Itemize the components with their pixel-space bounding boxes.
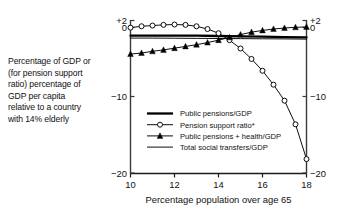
- xtick-label-10: 10: [125, 179, 135, 190]
- data-point-marker: [183, 22, 188, 27]
- legend-item-1: Pension support ratio*: [147, 121, 255, 130]
- line-chart: +2 0 −10 −20 +2 0 −10 −20 10 12 14 16 18: [0, 0, 357, 210]
- ytick-label-left-m20: −20: [111, 168, 127, 179]
- data-point-marker: [150, 23, 155, 28]
- y-axis-tick-labels-left: +2 0 −10 −20: [111, 15, 127, 179]
- chart-figure: Percentage of GDP or (for pension suppor…: [0, 0, 357, 210]
- ytick-label-right-0: 0: [310, 22, 315, 33]
- xtick-label-12: 12: [169, 179, 179, 190]
- legend-item-2: Public pensions + health/GDP: [147, 132, 281, 141]
- data-point-marker: [293, 122, 298, 127]
- data-point-marker: [172, 22, 177, 27]
- series-2: [128, 24, 310, 57]
- series-line: [131, 38, 307, 39]
- plot-area-container: +2 0 −10 −20 +2 0 −10 −20 10 12 14 16 18: [0, 0, 357, 210]
- ytick-label-left-m10: −10: [111, 91, 127, 102]
- data-point-marker: [128, 25, 133, 30]
- xtick-label-16: 16: [257, 179, 267, 190]
- data-point-marker: [260, 68, 265, 73]
- data-point-marker: [282, 98, 287, 103]
- xtick-label-18: 18: [301, 179, 311, 190]
- legend-label: Public pensions/GDP: [180, 109, 252, 118]
- data-point-marker: [194, 24, 199, 29]
- legend-label: Public pensions + health/GDP: [180, 132, 281, 141]
- legend-label: Total social transfers/GDP: [180, 143, 268, 152]
- y-axis-tick-labels-right: +2 0 −10 −20: [310, 15, 326, 179]
- data-point-marker: [238, 46, 243, 51]
- x-axis-title: Percentage population over age 65: [146, 194, 292, 205]
- series-3: [131, 38, 307, 39]
- data-point-marker: [271, 82, 276, 87]
- xtick-label-14: 14: [213, 179, 223, 190]
- ytick-label-right-m20: −20: [310, 168, 326, 179]
- data-point-marker: [304, 157, 309, 162]
- x-axis-tick-labels: 10 12 14 16 18: [125, 179, 311, 190]
- legend-circle-marker-icon: [158, 122, 163, 127]
- data-point-marker: [139, 24, 144, 29]
- legend-label: Pension support ratio*: [180, 121, 255, 130]
- chart-legend: Public pensions/GDPPension support ratio…: [147, 109, 281, 152]
- data-point-marker: [205, 27, 210, 32]
- legend-item-0: Public pensions/GDP: [147, 109, 252, 118]
- legend-item-3: Total social transfers/GDP: [147, 143, 268, 152]
- ytick-label-left-0: 0: [122, 22, 127, 33]
- ytick-label-right-m10: −10: [310, 91, 326, 102]
- data-point-marker: [249, 56, 254, 61]
- data-point-marker: [216, 31, 221, 36]
- data-point-marker: [161, 22, 166, 27]
